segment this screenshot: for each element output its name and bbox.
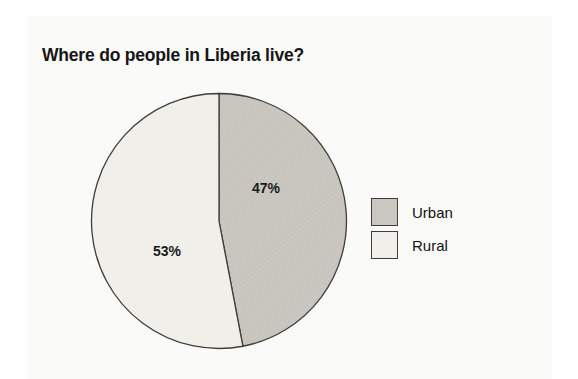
pie-chart [0,0,578,379]
legend: Urban Rural [371,198,453,264]
slice-label-rural: 53% [153,243,181,259]
slice-label-urban: 47% [252,180,280,196]
legend-item-urban: Urban [371,198,453,226]
pie-chart-figure: Where do people in Liberia live? 47% 53%… [0,0,578,379]
pie-slice-urban [219,94,346,347]
legend-label-urban: Urban [412,204,453,221]
legend-swatch-urban [371,198,398,226]
legend-label-rural: Rural [412,237,448,254]
legend-item-rural: Rural [371,231,453,259]
legend-swatch-rural [371,231,398,259]
